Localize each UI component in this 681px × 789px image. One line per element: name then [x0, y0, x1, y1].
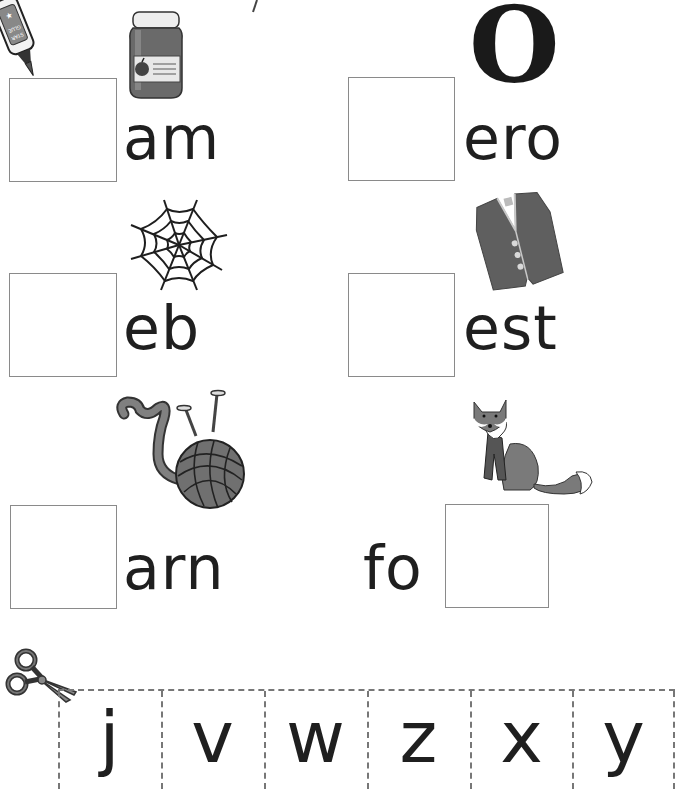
- word-part-est: est: [463, 298, 558, 358]
- glue-bottle-icon: ★ GLUE STAR: [0, 0, 40, 84]
- fox-icon: [468, 398, 594, 494]
- cut-letter-z: z: [367, 701, 470, 773]
- answer-box-web[interactable]: [9, 273, 117, 377]
- cut-strip: j v w z x y: [58, 689, 675, 789]
- answer-box-jam[interactable]: [9, 78, 117, 182]
- word-part-eb: eb: [123, 298, 200, 358]
- answer-box-vest[interactable]: [348, 273, 455, 377]
- cut-letter-v: v: [161, 701, 264, 773]
- word-part-fo: fo: [363, 538, 423, 598]
- answer-box-yarn[interactable]: [10, 505, 117, 609]
- cut-letter-j: j: [58, 701, 161, 773]
- cut-letter-x: x: [470, 701, 573, 773]
- cut-letter-y: y: [572, 701, 675, 773]
- answer-box-zero[interactable]: [348, 77, 455, 181]
- letter-o-graphic: O: [469, 0, 560, 98]
- answer-box-fox[interactable]: [445, 504, 549, 608]
- stray-mark: [250, 0, 260, 14]
- yarn-ball-icon: [118, 384, 248, 510]
- jam-jar-icon: [129, 12, 183, 98]
- vest-icon: [468, 190, 572, 290]
- spider-web-icon: [127, 193, 231, 297]
- word-part-am: am: [123, 108, 220, 168]
- cut-letter-w: w: [264, 701, 367, 773]
- word-part-arn: arn: [123, 538, 224, 598]
- word-part-ero: ero: [463, 108, 563, 168]
